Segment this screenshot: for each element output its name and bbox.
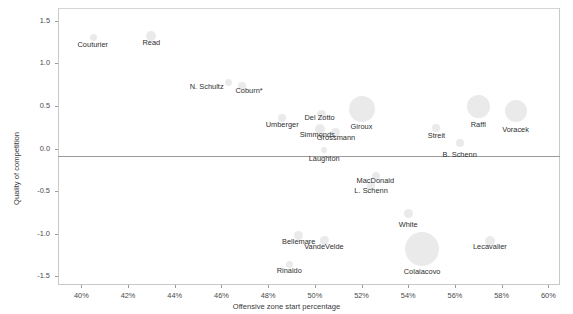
data-point-label: Umberger [266, 120, 299, 129]
data-point-label: Grossmann [317, 133, 355, 142]
data-point-label: Voracek [502, 125, 529, 134]
y-tick-mark [55, 106, 58, 107]
y-axis-title: Quality of competition [12, 132, 21, 205]
data-point-label: White [399, 220, 418, 229]
data-point-bubble [349, 96, 375, 122]
data-point-label: Lecavalier [473, 242, 507, 251]
x-tick-mark [408, 285, 409, 288]
x-tick-label: 48% [250, 291, 286, 300]
x-tick-label: 40% [63, 291, 99, 300]
y-tick-mark [55, 149, 58, 150]
x-axis-title: Offensive zone start percentage [0, 302, 573, 311]
x-tick-label: 42% [110, 291, 146, 300]
y-tick-label: -1.0 [26, 229, 50, 238]
x-tick-label: 60% [530, 291, 566, 300]
data-point-label: Coburn* [235, 86, 262, 95]
data-point-bubble [404, 209, 413, 218]
data-point-label: L. Schenn [354, 186, 387, 195]
x-tick-mark [221, 285, 222, 288]
data-point-label: Del Zotto [305, 113, 335, 122]
data-point-label: Colaiacovo [404, 267, 441, 276]
x-tick-label: 52% [344, 291, 380, 300]
x-tick-mark [502, 285, 503, 288]
x-tick-mark [81, 285, 82, 288]
data-point-bubble [225, 79, 232, 86]
y-tick-label: 1.0 [26, 58, 50, 67]
y-tick-mark [55, 191, 58, 192]
data-point-label: N. Schultz [190, 82, 224, 91]
y-tick-label: -0.5 [26, 186, 50, 195]
data-point-bubble [467, 95, 490, 118]
x-tick-label: 56% [437, 291, 473, 300]
data-point-label: Giroux [351, 122, 373, 131]
data-point-label: MacDonald [357, 176, 395, 185]
x-tick-mark [455, 285, 456, 288]
y-tick-mark [55, 21, 58, 22]
x-tick-mark [362, 285, 363, 288]
y-tick-label: 0.0 [26, 144, 50, 153]
x-tick-mark [175, 285, 176, 288]
x-tick-mark [268, 285, 269, 288]
data-point-label: Raffl [471, 120, 486, 129]
x-tick-label: 54% [390, 291, 426, 300]
data-point-bubble [456, 139, 464, 147]
data-point-label: VandeVelde [304, 242, 344, 251]
x-tick-mark [315, 285, 316, 288]
y-tick-mark [55, 63, 58, 64]
x-tick-label: 44% [157, 291, 193, 300]
y-tick-mark [55, 276, 58, 277]
y-tick-label: 0.5 [26, 101, 50, 110]
y-tick-label: -1.5 [26, 271, 50, 280]
data-point-label: Couturier [78, 40, 109, 49]
x-tick-label: 58% [484, 291, 520, 300]
x-tick-mark [128, 285, 129, 288]
data-point-label: B. Schenn [443, 150, 477, 159]
data-point-label: Laughton [309, 154, 340, 163]
data-point-label: Rinaldo [277, 266, 302, 275]
scatter-chart: CouturierReadN. SchultzCoburn*UmbergerDe… [0, 0, 573, 314]
x-tick-label: 46% [203, 291, 239, 300]
data-point-bubble [505, 100, 527, 122]
y-tick-mark [55, 234, 58, 235]
y-tick-label: 1.5 [26, 16, 50, 25]
data-point-label: Read [142, 38, 160, 47]
x-tick-label: 50% [297, 291, 333, 300]
data-point-label: Streit [428, 131, 445, 140]
x-tick-mark [548, 285, 549, 288]
